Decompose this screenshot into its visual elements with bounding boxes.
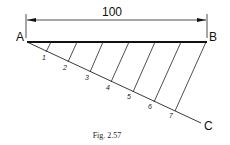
- line-division-diagram: 100 A B C 1 2 3 4 5 6 7 Fig. 2.57: [0, 0, 230, 145]
- point-c-label: C: [204, 119, 213, 133]
- arrow-right-icon: [197, 18, 206, 22]
- division-7: 7: [169, 112, 174, 119]
- division-6: 6: [148, 103, 152, 110]
- parallel-lines: [46, 42, 206, 111]
- arrow-left-icon: [27, 18, 36, 22]
- division-2: 2: [62, 64, 67, 71]
- point-b-label: B: [209, 30, 217, 44]
- figure-caption: Fig. 2.57: [93, 131, 122, 140]
- division-3: 3: [85, 74, 89, 81]
- division-1: 1: [42, 54, 46, 61]
- division-4: 4: [106, 84, 110, 91]
- dimension-label: 100: [102, 5, 122, 19]
- division-5: 5: [127, 93, 131, 100]
- point-a-label: A: [16, 30, 24, 44]
